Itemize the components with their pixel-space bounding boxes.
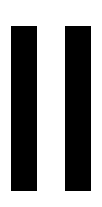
- bar-2: [65, 26, 91, 191]
- chart-canvas: [0, 0, 102, 207]
- bar-1: [11, 26, 37, 191]
